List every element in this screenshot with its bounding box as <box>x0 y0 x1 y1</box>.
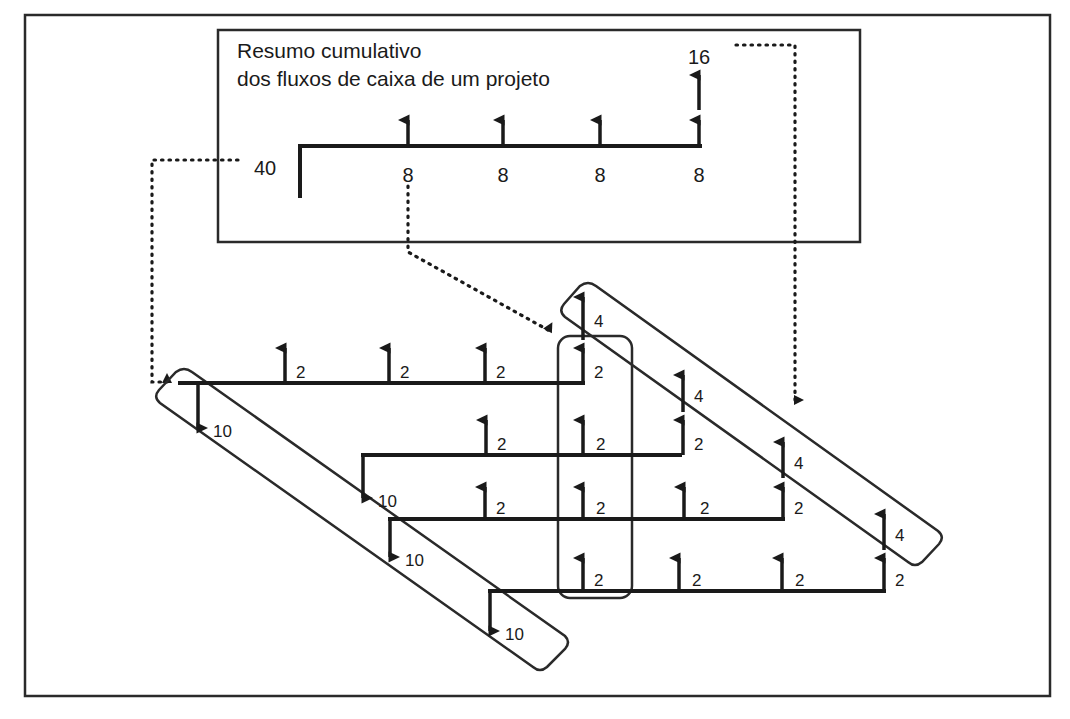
figure-canvas: Resumo cumulativo dos fluxos de caixa de… <box>0 0 1070 719</box>
detail-row-4-terminal-label: 4 <box>895 526 904 545</box>
detail-row-4-inflow-label-3: 2 <box>795 571 804 590</box>
detail-row-1-inflow-label-4: 2 <box>594 363 603 382</box>
detail-row-2-inflow-label-2: 2 <box>596 435 605 454</box>
summary-inflow-label-4: 8 <box>693 164 704 186</box>
summary-inflow-label-2: 8 <box>497 164 508 186</box>
detail-row-1-terminal-label: 4 <box>594 312 603 331</box>
connector-outflow-to-detail <box>152 160 238 382</box>
detail-row-4-inflow-label-2: 2 <box>692 571 701 590</box>
summary-title-line1: Resumo cumulativo <box>237 39 421 62</box>
detail-row-4-outflow-label: 10 <box>505 625 524 644</box>
connector-inflow-to-column <box>408 186 548 330</box>
summary-terminal-label: 16 <box>688 46 710 68</box>
detail-row-2 <box>363 375 683 498</box>
detail-row-3-inflow-label-4: 2 <box>794 499 803 518</box>
detail-row-1-inflow-label-1: 2 <box>296 363 305 382</box>
detail-row-1-inflow-label-3: 2 <box>496 363 505 382</box>
diagram-svg: Resumo cumulativo dos fluxos de caixa de… <box>0 0 1070 719</box>
detail-row-1-inflow-label-2: 2 <box>400 363 409 382</box>
summary-inflow-label-1: 8 <box>402 164 413 186</box>
detail-row-3-inflow-label-3: 2 <box>700 499 709 518</box>
detail-row-2-outflow-label: 10 <box>378 492 397 511</box>
detail-row-3-inflow-label-1: 2 <box>496 499 505 518</box>
connector-terminal-to-band <box>736 45 795 400</box>
detail-row-4 <box>490 514 884 631</box>
detail-row-3 <box>390 442 783 557</box>
detail-row-2-inflow-label-3: 2 <box>694 435 703 454</box>
detail-row-2-terminal-label: 4 <box>694 387 703 406</box>
summary-title-line2: dos fluxos de caixa de um projeto <box>237 67 550 90</box>
detail-row-3-terminal-label: 4 <box>794 454 803 473</box>
detail-row-3-outflow-label: 10 <box>405 551 424 570</box>
detail-row-1-outflow-label: 10 <box>213 422 232 441</box>
detail-row-4-inflow-label-4: 2 <box>895 571 904 590</box>
summary-initial-outflow-label: 40 <box>254 157 276 179</box>
summary-inflow-label-3: 8 <box>594 164 605 186</box>
detail-row-3-inflow-label-2: 2 <box>596 499 605 518</box>
outer-frame <box>25 15 1050 696</box>
detail-row-4-inflow-label-1: 2 <box>594 571 603 590</box>
detail-row-2-inflow-label-1: 2 <box>497 435 506 454</box>
